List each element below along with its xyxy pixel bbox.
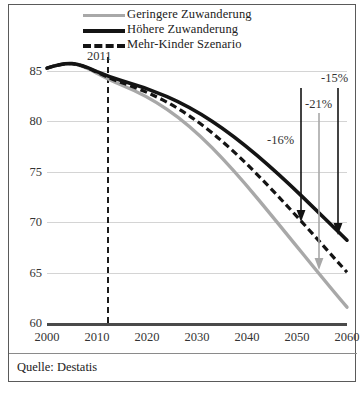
x-tick-label: 2060 xyxy=(327,330,364,345)
x-axis-baseline xyxy=(47,323,347,326)
x-tick-label: 2020 xyxy=(127,330,167,345)
chart-plot-area: 85 80 75 70 65 60 2011 xyxy=(9,5,357,383)
x-tick-label: 2040 xyxy=(227,330,267,345)
annotation-arrow-15 xyxy=(334,88,343,235)
chart-figure: Geringere Zuwanderung Höhere Zuwanderung… xyxy=(8,4,356,382)
annotation-label-16: -16% xyxy=(267,133,294,148)
annotation-label-15: -15% xyxy=(321,71,348,86)
annotation-label-21: -21% xyxy=(305,97,332,112)
footer-divider xyxy=(9,353,357,354)
x-tick-label: 2010 xyxy=(77,330,117,345)
source-note: Quelle: Destatis xyxy=(17,360,97,375)
chart-curves xyxy=(9,5,357,383)
series-line-mehr-kinder-szenario xyxy=(47,64,347,273)
x-tick-label: 2050 xyxy=(277,330,317,345)
series-line-geringere-zuwanderung xyxy=(47,64,347,307)
x-tick-label: 2000 xyxy=(27,330,67,345)
x-tick-label: 2030 xyxy=(177,330,217,345)
